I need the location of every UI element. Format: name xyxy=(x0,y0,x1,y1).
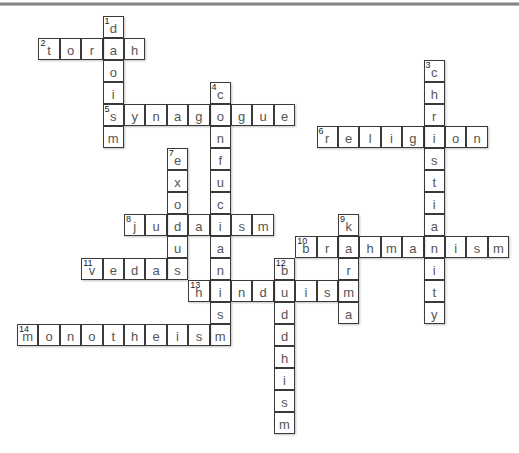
crossword-cell[interactable]: o xyxy=(210,104,231,126)
crossword-cell[interactable]: 3c xyxy=(424,60,445,82)
crossword-cell[interactable]: n xyxy=(210,126,231,148)
crossword-cell[interactable]: l xyxy=(359,126,380,148)
crossword-cell[interactable]: 7e xyxy=(167,148,188,170)
crossword-cell[interactable]: h xyxy=(359,236,380,258)
crossword-cell[interactable]: o xyxy=(81,324,102,346)
crossword-cell[interactable]: o xyxy=(60,38,81,60)
crossword-cell[interactable]: a xyxy=(424,214,445,236)
crossword-cell[interactable]: i xyxy=(210,214,231,236)
crossword-cell[interactable]: g xyxy=(231,104,252,126)
crossword-cell[interactable]: h xyxy=(274,346,295,368)
crossword-cell[interactable]: u xyxy=(167,236,188,258)
crossword-cell[interactable]: o xyxy=(445,126,466,148)
crossword-cell[interactable]: t xyxy=(424,280,445,302)
crossword-cell[interactable]: i xyxy=(445,236,466,258)
crossword-cell[interactable]: i xyxy=(103,82,124,104)
crossword-cell[interactable]: i xyxy=(381,126,402,148)
crossword-cell[interactable]: 8j xyxy=(124,214,145,236)
crossword-cell[interactable]: d xyxy=(274,302,295,324)
crossword-cell[interactable]: i xyxy=(274,368,295,390)
crossword-cell[interactable]: h xyxy=(124,38,145,60)
crossword-cell[interactable]: u xyxy=(274,280,295,302)
crossword-cell[interactable]: h xyxy=(424,82,445,104)
crossword-cell[interactable]: u xyxy=(145,214,166,236)
crossword-cell[interactable]: m xyxy=(103,126,124,148)
crossword-cell[interactable]: 10b xyxy=(295,236,316,258)
crossword-cell[interactable]: 9k xyxy=(338,214,359,236)
crossword-cell[interactable]: m xyxy=(274,412,295,434)
crossword-cell[interactable]: a xyxy=(338,302,359,324)
crossword-cell[interactable]: u xyxy=(210,170,231,192)
crossword-cell[interactable]: i xyxy=(167,324,188,346)
crossword-cell[interactable]: s xyxy=(466,236,487,258)
crossword-cell[interactable]: d xyxy=(274,324,295,346)
crossword-cell[interactable]: d xyxy=(252,280,273,302)
crossword-cell[interactable]: g xyxy=(188,104,209,126)
crossword-cell[interactable]: t xyxy=(424,170,445,192)
crossword-cell[interactable]: y xyxy=(124,104,145,126)
crossword-cell[interactable]: n xyxy=(231,280,252,302)
crossword-cell[interactable]: o xyxy=(38,324,59,346)
crossword-cell[interactable]: n xyxy=(424,236,445,258)
crossword-cell[interactable]: y xyxy=(424,302,445,324)
crossword-cell[interactable]: i xyxy=(424,258,445,280)
crossword-cell[interactable]: x xyxy=(167,170,188,192)
crossword-cell[interactable]: s xyxy=(210,302,231,324)
crossword-cell[interactable]: n xyxy=(210,258,231,280)
crossword-cell[interactable]: e xyxy=(145,324,166,346)
crossword-cell[interactable]: s xyxy=(231,214,252,236)
crossword-cell[interactable]: m xyxy=(338,280,359,302)
crossword-cell[interactable]: a xyxy=(145,258,166,280)
crossword-cell[interactable]: s xyxy=(188,324,209,346)
crossword-cell[interactable]: i xyxy=(295,280,316,302)
crossword-cell[interactable]: d xyxy=(124,258,145,280)
crossword-cell[interactable]: r xyxy=(424,104,445,126)
crossword-cell[interactable]: i xyxy=(424,126,445,148)
crossword-cell[interactable]: 13h xyxy=(188,280,209,302)
crossword-cell[interactable]: m xyxy=(210,324,231,346)
crossword-cell[interactable]: e xyxy=(103,258,124,280)
crossword-cell[interactable]: a xyxy=(338,236,359,258)
crossword-cell[interactable]: 1d xyxy=(103,16,124,38)
crossword-cell[interactable]: n xyxy=(145,104,166,126)
crossword-cell[interactable]: m xyxy=(252,214,273,236)
crossword-cell[interactable]: 5s xyxy=(103,104,124,126)
crossword-cell[interactable]: 12b xyxy=(274,258,295,280)
crossword-cell[interactable]: s xyxy=(274,390,295,412)
crossword-cell[interactable]: g xyxy=(402,126,423,148)
crossword-cell[interactable]: i xyxy=(424,192,445,214)
crossword-cell[interactable]: s xyxy=(424,148,445,170)
crossword-cell[interactable]: h xyxy=(124,324,145,346)
crossword-cell[interactable]: u xyxy=(252,104,273,126)
crossword-cell[interactable]: d xyxy=(167,214,188,236)
crossword-cell[interactable]: 2t xyxy=(38,38,59,60)
crossword-cell[interactable]: s xyxy=(167,258,188,280)
crossword-cell[interactable]: n xyxy=(60,324,81,346)
crossword-cell[interactable]: 11v xyxy=(81,258,102,280)
crossword-cell[interactable]: r xyxy=(317,236,338,258)
crossword-cell[interactable]: a xyxy=(188,214,209,236)
crossword-cell[interactable]: o xyxy=(167,192,188,214)
crossword-cell[interactable]: a xyxy=(167,104,188,126)
crossword-cell[interactable]: e xyxy=(274,104,295,126)
crossword-cell[interactable]: 14m xyxy=(17,324,38,346)
crossword-cell[interactable]: f xyxy=(210,148,231,170)
crossword-cell[interactable]: a xyxy=(210,236,231,258)
crossword-cell[interactable]: m xyxy=(488,236,509,258)
crossword-cell[interactable]: r xyxy=(338,258,359,280)
crossword-cell[interactable]: a xyxy=(402,236,423,258)
crossword-cell[interactable]: 4c xyxy=(210,82,231,104)
crossword-cell[interactable]: t xyxy=(103,324,124,346)
cell-letter: i xyxy=(112,86,115,101)
crossword-cell[interactable]: o xyxy=(103,60,124,82)
crossword-cell[interactable]: e xyxy=(338,126,359,148)
crossword-cell[interactable]: c xyxy=(210,192,231,214)
cell-letter: e xyxy=(152,328,159,343)
crossword-cell[interactable]: 6r xyxy=(317,126,338,148)
crossword-cell[interactable]: s xyxy=(317,280,338,302)
crossword-cell[interactable]: m xyxy=(381,236,402,258)
crossword-cell[interactable]: n xyxy=(466,126,487,148)
crossword-cell[interactable]: r xyxy=(81,38,102,60)
crossword-cell[interactable]: a xyxy=(103,38,124,60)
crossword-cell[interactable]: i xyxy=(210,280,231,302)
